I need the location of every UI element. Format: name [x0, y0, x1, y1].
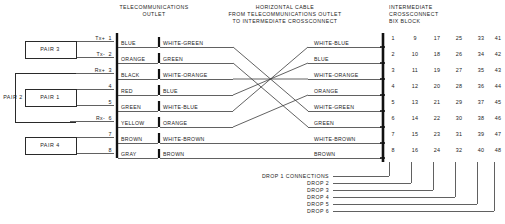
- cable-wire-right-7: WHITE-BROWN: [314, 136, 356, 142]
- bix-cell-r4c4: 28: [452, 83, 466, 89]
- outlet-pin-3: 3: [105, 67, 115, 73]
- outlet-wire-5: GREEN: [121, 104, 141, 110]
- drop-leader-lines: [333, 162, 494, 211]
- pair-1-label: PAIR 1: [25, 89, 75, 105]
- outlet-wire-4: RED: [121, 88, 133, 94]
- bix-cell-r6c2: 14: [408, 115, 422, 121]
- outlet-wire-1: BLUE: [121, 40, 136, 46]
- bix-cell-r3c1: 3: [386, 67, 400, 73]
- bix-cell-r4c3: 20: [430, 83, 444, 89]
- bix-cell-r1c1: 1: [386, 35, 400, 41]
- bix-cell-r2c3: 18: [430, 51, 444, 57]
- drop-label-3: DROP 3: [255, 187, 329, 193]
- bix-cell-r5c2: 13: [408, 99, 422, 105]
- bix-cell-r3c3: 19: [430, 67, 444, 73]
- header-bix-line2: CROSSCONNECT: [389, 11, 439, 17]
- outlet-pin-8: 8: [105, 147, 115, 153]
- bix-cell-r7c6: 47: [491, 131, 505, 137]
- bix-cell-r7c2: 15: [408, 131, 422, 137]
- outlet-wire-2: ORANGE: [121, 56, 145, 62]
- signal-label-rx-plus: Rx+: [79, 67, 105, 73]
- header-cable-line2: FROM TELECOMMUNICATIONS OUTLET: [210, 11, 360, 17]
- signal-label-tx-minus: Tx-: [79, 51, 105, 57]
- bix-cell-r6c4: 30: [452, 115, 466, 121]
- outlet-pin-1: 1: [105, 35, 115, 41]
- bix-cell-r7c3: 23: [430, 131, 444, 137]
- header-bix-line1: INTERMEDIATE: [389, 4, 433, 10]
- bix-cell-r8c6: 48: [491, 147, 505, 153]
- signal-label-rx-minus: Rx-: [79, 115, 105, 121]
- bix-cell-r3c2: 11: [408, 67, 422, 73]
- bix-cell-r3c4: 27: [452, 67, 466, 73]
- drop-label-4: DROP 4: [255, 194, 329, 200]
- bix-cell-r7c1: 7: [386, 131, 400, 137]
- signal-label-tx-plus: Tx+: [79, 35, 105, 41]
- bix-cell-r8c3: 24: [430, 147, 444, 153]
- bix-cell-r6c1: 6: [386, 115, 400, 121]
- bix-cell-r1c2: 9: [408, 35, 422, 41]
- bix-cell-r5c1: 5: [386, 99, 400, 105]
- cable-wire-right-3: WHITE-ORANGE: [314, 72, 359, 78]
- cable-wire-left-1: WHITE-GREEN: [163, 40, 203, 46]
- drop-label-2: DROP 2: [255, 180, 329, 186]
- outlet-wire-7: BROWN: [121, 136, 142, 142]
- cable-wire-left-2: GREEN: [163, 56, 183, 62]
- bix-cell-r6c6: 46: [491, 115, 505, 121]
- bix-cell-r1c6: 41: [491, 35, 505, 41]
- bix-cell-r4c6: 44: [491, 83, 505, 89]
- bix-cell-r5c6: 45: [491, 99, 505, 105]
- cable-wire-right-2: BLUE: [314, 56, 329, 62]
- drop-label-5: DROP 5: [255, 201, 329, 207]
- drop-label-6: DROP 6: [255, 208, 329, 214]
- bix-cell-r2c1: 2: [386, 51, 400, 57]
- outlet-pin-2: 2: [105, 51, 115, 57]
- bix-cell-r6c3: 22: [430, 115, 444, 121]
- pair-crossover-lines: [233, 47, 308, 127]
- bix-cell-r4c5: 36: [474, 83, 488, 89]
- outlet-wire-8: GRAY: [121, 151, 137, 157]
- cable-wire-right-5: WHITE-GREEN: [314, 104, 354, 110]
- cable-wire-left-3: WHITE-ORANGE: [163, 72, 208, 78]
- header-cable-line1: HORIZONTAL CABLE: [210, 4, 360, 10]
- header-bix-line3: BIX BLOCK: [389, 18, 420, 24]
- bix-cell-r8c4: 32: [452, 147, 466, 153]
- bix-cell-r8c1: 8: [386, 147, 400, 153]
- cable-wire-left-5: WHITE-BLUE: [163, 104, 198, 110]
- bix-cell-r5c4: 29: [452, 99, 466, 105]
- pair-4-label: PAIR 4: [25, 137, 75, 153]
- header-cable-line3: TO INTERMEDIATE CROSSCONNECT: [210, 18, 360, 24]
- outlet-wire-3: BLACK: [121, 72, 140, 78]
- cable-wire-right-4: ORANGE: [314, 88, 338, 94]
- cable-wire-left-7: WHITE-BROWN: [163, 136, 205, 142]
- bix-cell-r8c5: 40: [474, 147, 488, 153]
- bix-cell-r4c2: 12: [408, 83, 422, 89]
- bix-cell-r1c3: 17: [430, 35, 444, 41]
- cable-wire-left-4: BLUE: [163, 88, 178, 94]
- header-outlet-line2: OUTLET: [104, 11, 204, 17]
- drop-label-1: DROP 1 CONNECTIONS: [255, 173, 329, 179]
- bix-cell-r3c6: 43: [491, 67, 505, 73]
- bix-cell-r8c2: 16: [408, 147, 422, 153]
- bix-cell-r2c2: 10: [408, 51, 422, 57]
- bix-cell-r2c6: 42: [491, 51, 505, 57]
- bix-cell-r3c5: 35: [474, 67, 488, 73]
- outlet-pin-7: 7: [105, 131, 115, 137]
- cable-wire-right-8: BROWN: [314, 151, 335, 157]
- bix-cell-r1c5: 33: [474, 35, 488, 41]
- bix-cell-r6c5: 38: [474, 115, 488, 121]
- header-outlet-line1: TELECOMMUNICATIONS: [104, 4, 204, 10]
- cable-wire-right-1: WHITE-BLUE: [314, 40, 349, 46]
- outlet-pin-6: 6: [105, 115, 115, 121]
- bix-cell-r7c5: 39: [474, 131, 488, 137]
- bix-cell-r5c5: 37: [474, 99, 488, 105]
- bix-cell-r7c4: 31: [452, 131, 466, 137]
- outlet-wire-6: YELLOW: [121, 120, 144, 126]
- outlet-pin-5: 5: [105, 99, 115, 105]
- bix-cell-r5c3: 21: [430, 99, 444, 105]
- bix-cell-r2c4: 26: [452, 51, 466, 57]
- pair-3-label: PAIR 3: [25, 41, 75, 57]
- cable-wire-right-6: GREEN: [314, 120, 334, 126]
- bix-cell-r4c1: 4: [386, 83, 400, 89]
- outlet-pin-4: 4: [105, 83, 115, 89]
- bix-cell-r2c5: 34: [474, 51, 488, 57]
